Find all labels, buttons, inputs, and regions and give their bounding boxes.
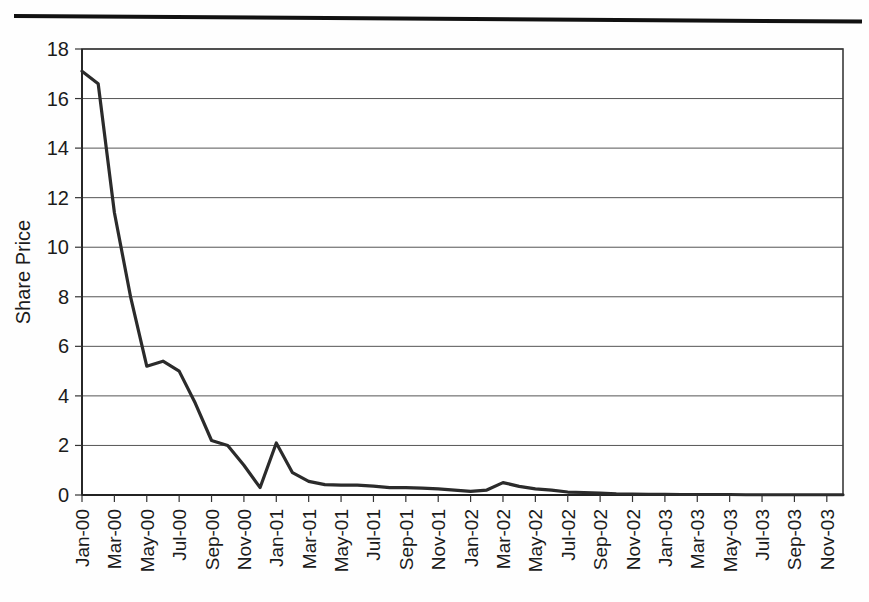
x-tick-label: Mar-03 [687,509,708,569]
y-tick-label: 16 [47,88,69,110]
x-tick-label: May-00 [137,509,158,572]
chart-canvas: 024681012141618 Jan-00Mar-00May-00Jul-00… [0,0,869,602]
x-tick-label: Mar-01 [299,509,320,569]
x-tick-label: Sep-00 [202,509,223,570]
x-tick-label: Jul-01 [363,509,384,561]
x-tick-label: May-03 [720,509,741,572]
y-tick-label: 12 [47,187,69,209]
x-tick-label: Mar-02 [493,509,514,569]
x-tick-label: Sep-02 [590,509,611,570]
x-tick-label: May-01 [331,509,352,572]
x-tick-label: Jul-00 [169,509,190,561]
x-tick-label: Nov-01 [428,509,449,570]
x-tick-label: Nov-02 [623,509,644,570]
share-price-line-chart: 024681012141618 Jan-00Mar-00May-00Jul-00… [0,0,869,602]
x-tick-label: Sep-01 [396,509,417,570]
x-tick-label: Jan-02 [461,509,482,567]
scanned-page: 024681012141618 Jan-00Mar-00May-00Jul-00… [0,0,869,602]
y-axis-title: Share Price [12,220,34,325]
x-tick-label: Jan-03 [655,509,676,567]
y-tick-label: 0 [58,484,69,506]
y-axis-ticks-group: 024681012141618 [47,38,82,506]
x-tick-label: May-02 [525,509,546,572]
x-tick-label: Jul-03 [752,509,773,561]
x-tick-label: Jul-02 [558,509,579,561]
plot-background [82,49,843,495]
y-tick-label: 14 [47,137,69,159]
x-tick-label: Jan-01 [266,509,287,567]
x-tick-label: Sep-03 [784,509,805,570]
y-tick-label: 18 [47,38,69,60]
x-tick-label: Nov-00 [234,509,255,570]
y-tick-label: 4 [58,385,69,407]
y-tick-label: 6 [58,335,69,357]
y-tick-label: 10 [47,236,69,258]
y-tick-label: 2 [58,434,69,456]
x-axis-labels-group: Jan-00Mar-00May-00Jul-00Sep-00Nov-00Jan-… [72,509,838,572]
y-tick-label: 8 [58,286,69,308]
x-tick-label: Mar-00 [104,509,125,569]
x-tick-label: Nov-03 [817,509,838,570]
x-tick-label: Jan-00 [72,509,93,567]
